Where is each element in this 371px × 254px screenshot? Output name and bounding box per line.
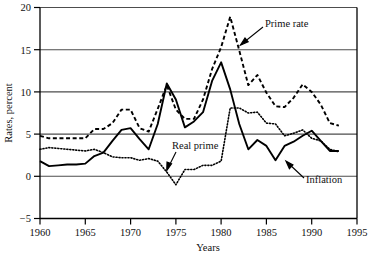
- annotation-real-prime: Real prime: [172, 140, 219, 151]
- xtick-label-1985: 1985: [256, 227, 277, 238]
- xtick-label-1975: 1975: [165, 227, 186, 238]
- xtick-label-1965: 1965: [75, 227, 96, 238]
- ytick-label-10: 10: [21, 87, 32, 98]
- xtick-label-1960: 1960: [30, 227, 51, 238]
- y-axis-title: Rates, percent: [3, 83, 14, 143]
- ytick-label-neg5: −5: [20, 213, 31, 224]
- ytick-label-0: 0: [26, 171, 31, 182]
- annotation-prime-rate: Prime rate: [265, 18, 309, 29]
- xtick-label-1970: 1970: [120, 227, 141, 238]
- ytick-label-15: 15: [21, 45, 32, 56]
- rates-percent-line-chart: 20 15 10 5 0 −5 1960 1965 1970 1975 1980…: [0, 0, 371, 254]
- chart-figure: 20 15 10 5 0 −5 1960 1965 1970 1975 1980…: [0, 0, 371, 254]
- ytick-label-20: 20: [21, 2, 32, 13]
- x-axis-title: Years: [196, 242, 219, 253]
- annotation-inflation: Inflation: [306, 174, 343, 185]
- xtick-label-1980: 1980: [211, 227, 232, 238]
- xtick-label-1990: 1990: [301, 227, 322, 238]
- ytick-label-5: 5: [26, 129, 31, 140]
- xtick-label-1995: 1995: [347, 227, 368, 238]
